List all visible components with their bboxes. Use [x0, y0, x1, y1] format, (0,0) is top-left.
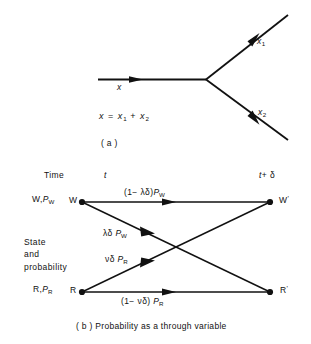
edge-w-to-w-prefix: (1− λδ) [124, 187, 153, 197]
row-w-state-name: W, [32, 194, 43, 204]
edge-label-r-to-w: νδ PR [105, 254, 128, 266]
node-r-start [79, 289, 85, 295]
axis-line-1: State [24, 237, 46, 247]
branch-up-label: x1 [257, 36, 265, 48]
edge-r-to-r-sub: R [159, 300, 163, 307]
row-r-prob-sub: R [48, 288, 52, 295]
equation-equals: = [108, 111, 114, 121]
branch-in-label: x [117, 82, 122, 93]
panel-b-graphics [79, 199, 273, 296]
node-w-end [267, 199, 273, 205]
edge-label-w-to-r: λδ PW [103, 228, 127, 240]
branch-down-label-sub: 2 [263, 111, 266, 118]
branch-down-label: x2 [258, 107, 266, 119]
panel-a-tag: ( a ) [101, 138, 118, 149]
panel-b-caption-text: Probability as a through variable [95, 321, 226, 331]
edge-r-to-w-arrowhead [140, 257, 155, 267]
axis-line-2: and [24, 249, 39, 259]
time-row-label: Time [44, 170, 64, 181]
time-right-delta: + δ [262, 170, 275, 180]
node-w-start-label: W [69, 195, 77, 206]
panel-b-tag: ( b ) [76, 321, 93, 331]
row-w-prob-sub: W [48, 198, 54, 205]
branch-in-arrowhead [129, 76, 143, 82]
edge-w-to-r-arrowhead [140, 227, 155, 237]
edge-r-to-w-sub: R [123, 258, 127, 265]
panel-b-caption: ( b ) Probability as a through variable [76, 321, 227, 332]
edge-w-to-r-prefix: λδ [103, 228, 115, 238]
time-right-value: t+ δ [259, 170, 275, 181]
edge-r-to-r-arrowhead [162, 289, 176, 296]
edge-w-to-r-sub: W [121, 232, 127, 239]
branch-up-label-sub: 1 [262, 40, 265, 47]
row-w-state-label: W,PW [32, 194, 54, 206]
row-r-state-label: R,PR [33, 284, 52, 296]
node-r-end [267, 289, 273, 295]
node-r-start-label: R [70, 285, 77, 296]
node-w-start [79, 199, 85, 205]
edge-r-to-r-prefix: (1− νδ) [121, 296, 153, 306]
figure-container: x x1 x2 x = x1 + x2 ( a ) Time t t+ δ W,… [0, 0, 311, 344]
axis-line-3: probability [24, 262, 67, 272]
edge-r-to-w-prefix: νδ [105, 254, 118, 264]
node-w-end-prime: ' [287, 195, 289, 202]
equation-term2-sub: 2 [146, 115, 149, 122]
edge-w-to-w-arrowhead [162, 199, 176, 206]
edge-label-r-to-r: (1− νδ) PR [121, 296, 163, 308]
edge-w-to-w-sub: W [159, 191, 165, 198]
row-r-state-name: R, [33, 284, 42, 294]
time-left-value: t [104, 170, 107, 181]
node-r-end-prime: ' [287, 285, 289, 292]
node-r-end-label: R' [280, 285, 288, 296]
equation-lhs: x [99, 111, 105, 121]
branch-up-line [206, 15, 288, 80]
branch-down-line [206, 80, 288, 141]
axis-state-probability-label: State and probability [24, 236, 67, 273]
node-w-end-label: W' [279, 195, 289, 206]
panel-a-equation: x = x1 + x2 [99, 111, 149, 123]
equation-term1-sub: 1 [123, 115, 126, 122]
equation-plus: + [130, 111, 136, 121]
edge-label-w-to-w: (1− λδ)PW [124, 187, 165, 199]
